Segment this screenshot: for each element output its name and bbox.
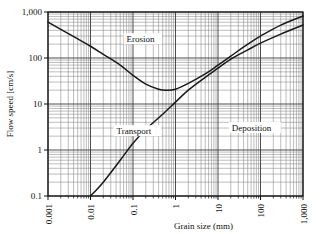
y-tick-label: 1 xyxy=(38,145,43,155)
hjulstrom-chart-figure: Erosion (critical erosion velocity)Depos… xyxy=(0,0,320,234)
x-tick-label: 0.001 xyxy=(44,204,54,224)
x-axis-title: Grain size (mm) xyxy=(174,221,233,231)
x-tick-label: 0.1 xyxy=(129,204,139,215)
x-tick-label: 0.01 xyxy=(86,204,96,220)
x-tick-label: 100 xyxy=(256,204,266,218)
chart-svg: Erosion (critical erosion velocity)Depos… xyxy=(0,0,320,234)
y-tick-label: 100 xyxy=(29,53,43,63)
y-axis-title: Flow speed [cm/s] xyxy=(5,71,15,138)
x-tick-label: 1,000 xyxy=(299,204,309,225)
y-tick-label: 1,000 xyxy=(22,7,43,17)
x-tick-label: 10 xyxy=(214,204,224,214)
erosion-label: Erosion xyxy=(127,34,155,44)
x-tick-label: 1 xyxy=(171,204,181,209)
y-tick-labels: 0.11101001,000 xyxy=(22,7,43,201)
deposition-label: Deposition xyxy=(232,123,272,133)
transport-label: Transport xyxy=(117,126,152,136)
y-tick-label: 0.1 xyxy=(31,191,42,201)
y-tick-label: 10 xyxy=(33,99,43,109)
